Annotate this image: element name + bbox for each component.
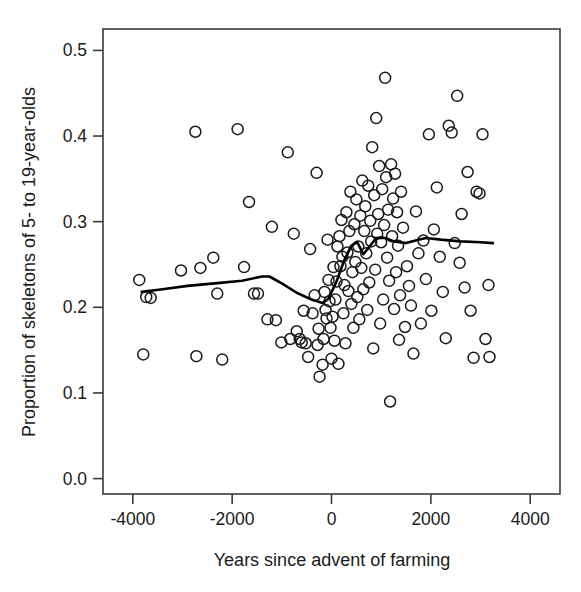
data-point [244, 196, 255, 207]
data-point [468, 352, 479, 363]
data-point [336, 214, 347, 225]
y-tick-label: 0.1 [63, 383, 87, 403]
data-point [350, 256, 361, 267]
data-point [400, 322, 411, 333]
data-point [459, 282, 470, 293]
data-point [367, 142, 378, 153]
y-tick-label: 0.0 [63, 469, 88, 489]
data-point [413, 248, 424, 259]
data-point [465, 305, 476, 316]
data-point [443, 120, 454, 131]
data-point [313, 323, 324, 334]
data-point [431, 182, 442, 193]
data-point [217, 354, 228, 365]
data-point [420, 274, 431, 285]
data-point [305, 244, 316, 255]
data-point [325, 322, 336, 333]
x-tick-label: 0 [327, 509, 337, 529]
data-point [352, 292, 363, 303]
data-point [340, 338, 351, 349]
data-point [134, 274, 145, 285]
data-point [379, 220, 390, 231]
data-point [322, 234, 333, 245]
data-point [354, 314, 365, 325]
data-point [462, 167, 473, 178]
data-point [389, 304, 400, 315]
data-point [371, 113, 382, 124]
x-tick-label: -2000 [210, 509, 255, 529]
y-tick-label: 0.4 [63, 126, 88, 146]
data-point [396, 186, 407, 197]
data-point [410, 206, 421, 217]
data-point [377, 184, 388, 195]
data-point [341, 207, 352, 218]
data-point [474, 188, 485, 199]
data-point [434, 251, 445, 262]
data-point [374, 161, 385, 172]
data-point [378, 294, 389, 305]
data-point [483, 280, 494, 291]
data-point [190, 126, 201, 137]
data-point [369, 190, 380, 201]
data-point [356, 262, 367, 273]
data-point [408, 348, 419, 359]
data-point [138, 349, 149, 360]
data-point [282, 147, 293, 158]
x-tick-label: -4000 [110, 509, 155, 529]
data-point [405, 300, 416, 311]
data-point [391, 267, 402, 278]
data-point [385, 396, 396, 407]
data-point [452, 90, 463, 101]
y-tick-label: 0.2 [63, 297, 87, 317]
data-point [456, 208, 467, 219]
y-axis-label: Proportion of skeletons of 5- to 19-year… [19, 87, 39, 437]
data-point [359, 226, 370, 237]
y-axis: 0.00.10.20.30.40.5 [63, 40, 103, 488]
data-point [288, 228, 299, 239]
data-point [402, 261, 413, 272]
data-point [338, 308, 349, 319]
data-point [480, 334, 491, 345]
data-point [208, 252, 219, 263]
data-point [303, 351, 314, 362]
data-point [360, 201, 371, 212]
data-point [346, 298, 357, 309]
data-point [415, 318, 426, 329]
x-tick-label: 4000 [511, 509, 550, 529]
data-point [318, 334, 329, 345]
data-point [311, 167, 322, 178]
data-point [323, 274, 334, 285]
data-point [426, 305, 437, 316]
data-point [368, 343, 379, 354]
data-point [395, 290, 406, 301]
data-point [370, 264, 381, 275]
data-point [332, 241, 343, 252]
data-point [428, 224, 439, 235]
data-point [312, 339, 323, 350]
data-point [454, 257, 465, 268]
data-point [358, 284, 369, 295]
data-point [437, 286, 448, 297]
trend-line [142, 238, 493, 303]
y-tick-label: 0.5 [63, 40, 87, 60]
data-point [314, 371, 325, 382]
y-tick-label: 0.3 [63, 212, 87, 232]
data-point [477, 129, 488, 140]
data-point [266, 221, 277, 232]
x-tick-label: 2000 [411, 509, 450, 529]
data-point [380, 72, 391, 83]
data-point [329, 335, 340, 346]
x-axis-label: Years since advent of farming [214, 550, 450, 570]
data-point [212, 288, 223, 299]
data-point [423, 129, 434, 140]
data-point [403, 280, 414, 291]
data-point [484, 351, 495, 362]
figure-container: 0.00.10.20.30.40.5 -4000-2000020004000 Y… [0, 0, 581, 592]
data-point [195, 262, 206, 273]
data-point [375, 318, 386, 329]
data-point [362, 304, 373, 315]
x-axis: -4000-2000020004000 [110, 494, 550, 529]
data-point [446, 127, 457, 138]
data-point [440, 333, 451, 344]
data-point [191, 351, 202, 362]
